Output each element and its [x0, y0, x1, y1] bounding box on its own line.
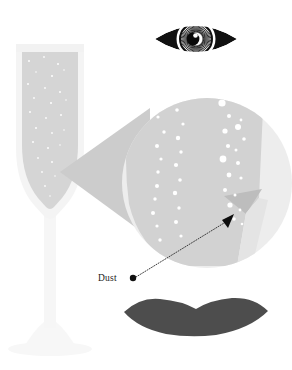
flute-bubble-15: [35, 127, 37, 129]
mag-bubble-mid-3: [179, 150, 182, 153]
flute-bubble-16: [51, 132, 53, 134]
flute-bubble-12: [29, 111, 31, 113]
flute-bubble-23: [41, 171, 43, 173]
flute-bubble-18: [32, 141, 34, 143]
mag-bubble-mid-6: [173, 191, 177, 195]
mag-bubble-right-7: [226, 144, 230, 148]
flute-bubble-7: [44, 87, 46, 89]
mag-bubble-left-9: [158, 238, 161, 241]
mag-bubble-mid-2: [176, 136, 180, 140]
mag-bubble-right-10: [236, 161, 240, 165]
mag-bubble-right-13: [223, 188, 227, 192]
mag-bubble-right-6: [242, 137, 246, 141]
mag-bubble-right-5: [235, 124, 241, 130]
mag-bubble-left-1: [162, 130, 165, 133]
mag-bubble-mid-4: [174, 163, 178, 167]
mag-bubble-right-8: [235, 149, 238, 152]
flute-bubble-14: [60, 114, 62, 116]
flute-bubble-1: [43, 56, 45, 58]
flute-bubble-25: [44, 185, 46, 187]
flute-stem: [44, 210, 56, 328]
flute-liquid: [22, 52, 78, 209]
flute-bubble-21: [37, 157, 39, 159]
mag-bubble-right-3: [240, 119, 243, 122]
mag-bubble-right-1: [232, 97, 235, 100]
flute-bubble-22: [51, 161, 53, 163]
mag-bubble-mid-8: [174, 220, 178, 224]
mag-bubble-left-8: [155, 224, 158, 227]
dust-bullet-dot: [130, 275, 136, 281]
eye-illustration: [155, 16, 237, 63]
mag-bubble-left-0: [156, 115, 159, 118]
illustration-canvas: Dust: [0, 0, 292, 370]
flute-bubble-8: [59, 91, 61, 93]
mag-bubble-right-18: [241, 223, 244, 226]
mag-bubble-mid-7: [177, 206, 180, 209]
mag-bubble-left-5: [155, 184, 159, 188]
mag-bubble-right-15: [227, 202, 232, 207]
flute-bubble-19: [47, 147, 49, 149]
mag-bubble-right-17: [232, 217, 236, 221]
flute-bubble-10: [50, 102, 52, 104]
flute-bubble-0: [28, 60, 30, 62]
mag-bubble-mid-0: [175, 108, 179, 112]
mag-bubble-right-2: [227, 114, 231, 118]
mag-bubble-left-2: [155, 144, 159, 148]
lips-illustration: [124, 298, 268, 336]
flute-bubble-5: [63, 69, 65, 71]
mag-bubble-left-7: [151, 211, 155, 215]
flute-bubble-24: [54, 175, 56, 177]
mag-bubble-right-4: [222, 128, 227, 133]
flute-bubble-3: [35, 71, 37, 73]
mag-bubble-mid-5: [178, 178, 182, 182]
mag-bubble-right-16: [239, 209, 242, 212]
flute-bubble-4: [51, 75, 53, 77]
mag-bubble-right-12: [239, 176, 242, 179]
mag-bubble-mid-1: [181, 122, 184, 125]
mag-bubble-right-14: [234, 194, 237, 197]
mag-bubble-left-4: [156, 170, 159, 173]
flute-bubble-9: [33, 97, 35, 99]
mag-bubble-left-6: [153, 197, 156, 200]
dust-label: Dust: [98, 273, 117, 283]
mag-bubble-right-9: [220, 156, 227, 163]
eye-pupil-highlight: [193, 33, 198, 38]
lips-shape: [124, 298, 268, 336]
champagne-flute: [8, 44, 92, 356]
mag-bubble-right-11: [227, 173, 232, 178]
flute-bubble-6: [27, 83, 29, 85]
flute-bubble-11: [65, 99, 67, 101]
flute-bubble-20: [59, 144, 61, 146]
flute-bubble-17: [63, 129, 65, 131]
flute-rim-highlight: [16, 44, 84, 52]
mag-bubble-left-3: [159, 157, 162, 160]
illustration-svg: Dust: [0, 0, 292, 370]
flute-bubble-13: [45, 117, 47, 119]
mag-bubble-right-0: [218, 99, 225, 106]
flute-bubble-26: [49, 195, 51, 197]
mag-bubble-mid-9: [179, 234, 182, 237]
flute-bubble-2: [57, 63, 59, 65]
